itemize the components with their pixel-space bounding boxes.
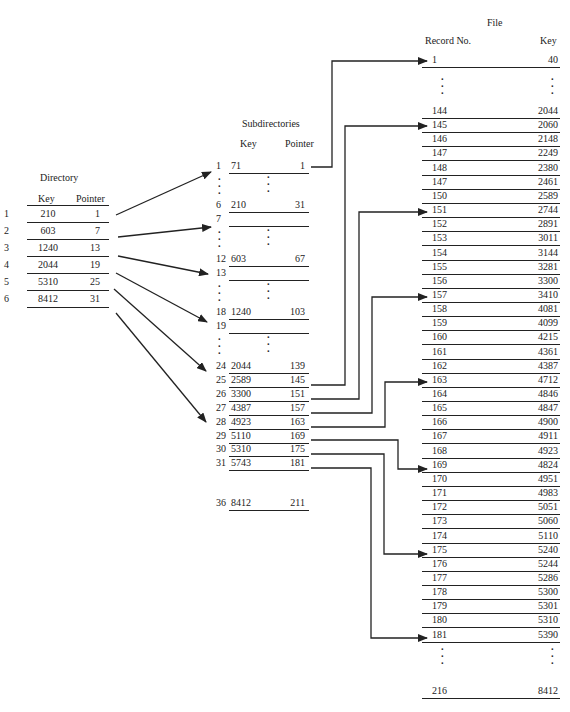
- directory-row-index: 3: [4, 242, 9, 254]
- file-row-key: 3300: [510, 275, 558, 287]
- directory-row-index: 1: [4, 208, 9, 220]
- file-row-record: 165: [432, 402, 447, 414]
- directory-row-key: 1240: [30, 242, 66, 254]
- subdirectory-row-pointer: 1: [270, 160, 305, 172]
- connector-arrows: [0, 0, 570, 712]
- file-row-key: 4951: [510, 473, 558, 485]
- file-row-key: 2380: [510, 162, 558, 174]
- row-divider: [27, 307, 109, 308]
- directory-row-pointer: 31: [70, 293, 100, 305]
- row-divider: [422, 67, 560, 68]
- subdirectory-row-index: 7: [216, 213, 221, 225]
- file-row-record: 161: [432, 346, 447, 358]
- subdirectory-row-index: 25: [216, 374, 226, 386]
- file-row-key: 5244: [510, 558, 558, 570]
- file-row-key: 3011: [510, 232, 558, 244]
- row-divider: [229, 212, 309, 213]
- file-row-key: 2461: [510, 176, 558, 188]
- arrow-sub31-to-rec181: [311, 468, 427, 638]
- subdirectory-row-index: 13: [216, 267, 226, 279]
- file-record-header: Record No.: [425, 35, 471, 47]
- arrow-dir3-to-sub13: [118, 256, 208, 274]
- arrow-dir4-to-sub19: [116, 273, 207, 322]
- file-row-key: 2744: [510, 204, 558, 216]
- file-row-record: 157: [432, 289, 447, 301]
- file-row-key: 4911: [510, 430, 558, 442]
- subdirectory-row-key: 2589: [231, 374, 251, 386]
- subdirectory-row-index: 19: [216, 320, 226, 332]
- row-divider: [422, 627, 560, 628]
- row-divider: [27, 239, 109, 240]
- subdirectory-row-pointer: 169: [270, 430, 305, 442]
- subdirectory-row-index: 28: [216, 416, 226, 428]
- file-row-record: 169: [432, 459, 447, 471]
- file-row-key: 5110: [510, 530, 558, 542]
- subdirectory-row-index: 12: [216, 253, 226, 265]
- directory-row-pointer: 7: [70, 225, 100, 237]
- file-row-record: 145: [432, 119, 447, 131]
- directory-row-pointer: 13: [70, 242, 100, 254]
- directory-row-key: 2044: [30, 259, 66, 271]
- ellipsis-key-icon: ···: [266, 281, 270, 302]
- subdirectory-row-index: 36: [216, 497, 226, 509]
- directory-row-key: 210: [30, 208, 66, 220]
- file-row-record: 158: [432, 303, 447, 315]
- file-row-key: 5301: [510, 600, 558, 612]
- arrow-sub1-to-rec1: [311, 61, 427, 167]
- file-row-record: 174: [432, 530, 447, 542]
- row-divider: [229, 266, 309, 267]
- file-row-record: 151: [432, 204, 447, 216]
- row-divider: [229, 470, 309, 471]
- file-row-key: 8412: [510, 685, 558, 697]
- subdirectory-row-pointer: 67: [270, 253, 305, 265]
- file-row-record: 171: [432, 487, 447, 499]
- subdirectory-row-key: 4387: [231, 402, 251, 414]
- subdirectory-row-key: 1240: [231, 306, 251, 318]
- file-row-record: 156: [432, 275, 447, 287]
- subdirectory-row-index: 29: [216, 430, 226, 442]
- file-row-record: 178: [432, 586, 447, 598]
- ellipsis-index-icon: ···: [217, 336, 221, 361]
- file-row-key: 4215: [510, 331, 558, 343]
- subdirectory-row-pointer: 151: [270, 388, 305, 400]
- file-row-key: 3410: [510, 289, 558, 301]
- file-row-record: 167: [432, 430, 447, 442]
- file-row-record: 181: [432, 629, 447, 641]
- file-row-key: 5390: [510, 629, 558, 641]
- ellipsis-key-icon: ···: [266, 334, 270, 355]
- file-row-record: 180: [432, 614, 447, 626]
- file-row-key: 4824: [510, 459, 558, 471]
- file-row-record: 172: [432, 501, 447, 513]
- directory-key-header: Key: [38, 193, 55, 205]
- file-row-record: 155: [432, 261, 447, 273]
- file-row-key: 2060: [510, 119, 558, 131]
- header-divider: [27, 205, 109, 206]
- directory-title: Directory: [40, 172, 78, 184]
- subdirectory-row-key: 2044: [231, 360, 251, 372]
- file-row-key: 5300: [510, 586, 558, 598]
- directory-row-index: 2: [4, 225, 9, 237]
- subdirectory-row-pointer: 31: [270, 199, 305, 211]
- row-divider: [422, 443, 560, 444]
- directory-row-key: 8412: [30, 293, 66, 305]
- row-divider: [27, 222, 109, 223]
- directory-row-key: 5310: [30, 276, 66, 288]
- file-row-key: 5310: [510, 614, 558, 626]
- file-row-record: 216: [432, 685, 447, 697]
- file-row-key: 3281: [510, 261, 558, 273]
- arrow-sub26-to-rec151: [311, 212, 427, 399]
- arrow-sub28-to-rec163: [311, 382, 427, 427]
- file-row-record: 146: [432, 133, 447, 145]
- file-row-key: 2148: [510, 133, 558, 145]
- file-row-record: 163: [432, 374, 447, 386]
- file-row-key: 5060: [510, 515, 558, 527]
- file-row-record: 1: [432, 54, 437, 66]
- subdirectory-row-key: 8412: [231, 497, 251, 509]
- file-row-record: 162: [432, 360, 447, 372]
- file-row-record: 176: [432, 558, 447, 570]
- file-row-record: 179: [432, 600, 447, 612]
- subdirectory-row-key: 603: [231, 253, 246, 265]
- subdirectory-row-index: 1: [216, 160, 221, 172]
- file-row-record: 147: [432, 176, 447, 188]
- file-row-key: 40: [510, 54, 558, 66]
